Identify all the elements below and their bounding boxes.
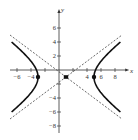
vertex-point — [92, 75, 96, 79]
y-tick-label: 6 — [53, 24, 57, 31]
y-tick-label: −6 — [49, 108, 57, 115]
x-tick-label: 4 — [85, 73, 89, 80]
x-axis-label: x — [129, 67, 134, 75]
y-tick-label: −8 — [49, 122, 56, 129]
hyperbola-chart: −6−4468642−4−6−8 x y — [0, 0, 138, 140]
center-point — [64, 75, 68, 79]
y-tick-label: 4 — [53, 38, 57, 45]
y-axis-label: y — [60, 6, 65, 14]
y-tick-label: 2 — [53, 52, 56, 59]
vertex-point — [36, 75, 40, 79]
x-tick-label: −6 — [14, 73, 22, 80]
x-tick-label: 8 — [113, 73, 116, 80]
axes — [10, 9, 129, 133]
x-tick-label: 6 — [99, 73, 103, 80]
x-axis-arrow-icon — [125, 68, 129, 71]
x-tick-label: −4 — [28, 73, 36, 80]
y-tick-label: −4 — [49, 94, 57, 101]
